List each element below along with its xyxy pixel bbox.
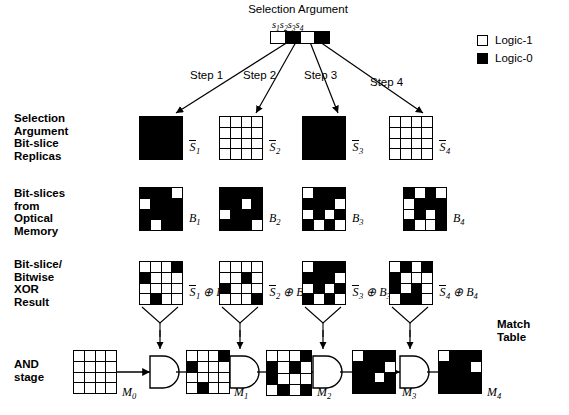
- cell: [325, 128, 335, 138]
- cell: [220, 210, 230, 220]
- cell: [172, 199, 182, 209]
- cell: [364, 383, 374, 393]
- cell: [401, 273, 411, 283]
- cell: [314, 117, 324, 127]
- cell: [140, 128, 150, 138]
- cell: [151, 139, 161, 149]
- cell: [390, 262, 400, 272]
- cell: [187, 373, 197, 383]
- cell: [231, 139, 241, 149]
- cell: [172, 273, 182, 283]
- cell: [471, 373, 481, 383]
- caption-M4: M4: [487, 385, 501, 401]
- cell: [220, 188, 230, 198]
- cell: [198, 351, 208, 361]
- cell: [151, 220, 161, 230]
- cell: [385, 373, 395, 383]
- cell: [96, 362, 106, 372]
- cell: [325, 188, 335, 198]
- cell: [252, 220, 262, 230]
- cell: [278, 362, 288, 372]
- cell: [461, 351, 471, 361]
- cell: [140, 262, 150, 272]
- cell: [231, 210, 241, 220]
- cell: [85, 351, 95, 361]
- cell: [422, 262, 432, 272]
- cell: [412, 139, 422, 149]
- cell: [252, 294, 262, 304]
- cell: [314, 294, 324, 304]
- cell: [303, 188, 313, 198]
- caption-B1: B1: [189, 211, 201, 227]
- cell: [106, 351, 116, 361]
- cell: [162, 188, 172, 198]
- cell: [385, 362, 395, 372]
- cell: [325, 273, 335, 283]
- cell: [252, 284, 262, 294]
- cell: [162, 199, 172, 209]
- cell: [303, 199, 313, 209]
- cell: [412, 273, 422, 283]
- cell: [325, 210, 335, 220]
- cell: [303, 220, 313, 230]
- step-label-4: Step 4: [370, 76, 403, 88]
- cell: [231, 188, 241, 198]
- row-label-xor: Bit-slice/ Bitwise XOR Result: [14, 258, 62, 308]
- cell: [242, 262, 252, 272]
- cell: [325, 220, 335, 230]
- cell: [172, 262, 182, 272]
- cell: [335, 210, 345, 220]
- cell: [242, 284, 252, 294]
- cell: [325, 139, 335, 149]
- cell: [74, 362, 84, 372]
- cell: [219, 373, 229, 383]
- cell: [390, 284, 400, 294]
- cell: [335, 284, 345, 294]
- cell: [385, 351, 395, 361]
- cell: [231, 284, 241, 294]
- cell: [422, 117, 432, 127]
- cell: [314, 273, 324, 283]
- selection-bit-s3[interactable]: [300, 32, 315, 43]
- selection-bit-s4[interactable]: [314, 32, 329, 43]
- cell: [335, 117, 345, 127]
- cell: [335, 262, 345, 272]
- cell: [252, 199, 262, 209]
- cell: [390, 117, 400, 127]
- grid-S1bar-xor-B1: [139, 261, 183, 305]
- grid-S3bar-xor-B3: [302, 261, 346, 305]
- cell: [151, 117, 161, 127]
- match-table-label: Match Table: [497, 318, 530, 343]
- selection-argument-bar[interactable]: [270, 31, 330, 44]
- cell: [401, 149, 411, 159]
- cell: [422, 128, 432, 138]
- cell: [140, 139, 150, 149]
- grid-B1: [139, 187, 183, 231]
- cell: [267, 351, 277, 361]
- selection-bit-s2[interactable]: [285, 32, 300, 43]
- selection-bit-s1[interactable]: [271, 32, 285, 43]
- cell: [375, 383, 385, 393]
- cell: [198, 362, 208, 372]
- cell: [404, 199, 414, 209]
- cell: [450, 351, 460, 361]
- cell: [74, 383, 84, 393]
- page-title: Selection Argument: [238, 3, 358, 16]
- legend-swatch-logic-0: [477, 53, 488, 64]
- cell: [278, 374, 288, 384]
- cell: [187, 383, 197, 393]
- cell: [314, 139, 324, 149]
- cell: [162, 210, 172, 220]
- cell: [231, 128, 241, 138]
- cell: [278, 351, 288, 361]
- cell: [404, 210, 414, 220]
- caption-S2bar: S2: [269, 140, 280, 156]
- row-label-bitslices: Bit-slices from Optical Memory: [14, 187, 65, 237]
- cell: [314, 199, 324, 209]
- cell: [335, 128, 345, 138]
- cell: [219, 362, 229, 372]
- row-label-and: AND stage: [14, 358, 44, 383]
- cell: [151, 273, 161, 283]
- cell: [231, 294, 241, 304]
- caption-S4bar: S4: [439, 140, 450, 156]
